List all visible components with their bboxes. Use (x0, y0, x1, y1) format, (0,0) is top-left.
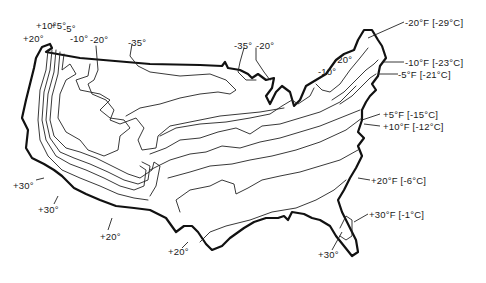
leader-ca-plus30b (54, 196, 58, 204)
isotherm-plus20-west (38, 50, 148, 200)
leader-ne-minus20 (368, 22, 404, 38)
label-east-minus10: -10° (318, 67, 336, 77)
leader-ec-plus10 (364, 124, 380, 126)
isotherm-lakes-minus35 (238, 48, 256, 80)
label-west-plus20: +20° (23, 34, 44, 44)
label-fl-plus30: +30° (318, 250, 339, 260)
label-north-minus35: -35° (128, 38, 146, 48)
label-lakes-minus20: -20° (256, 41, 274, 51)
label-ne-minus5: -5°F [-21°C] (398, 70, 451, 80)
label-ca-plus30-b: +30° (38, 205, 59, 215)
leader-se-plus30 (354, 214, 368, 222)
leader-ec-plus20 (358, 178, 370, 180)
label-ne-minus10: -10°F [-23°C] (405, 58, 463, 68)
label-east-minus20: -20° (334, 55, 352, 65)
leader-ca-plus30a (36, 178, 44, 180)
label-sw-plus20-a: +20° (100, 232, 121, 242)
leader-sw-plus20a (108, 218, 112, 230)
label-ne-minus20: -20°F [-29°C] (405, 18, 463, 28)
label-ec-plus20: +20°F [-6°C] (371, 176, 426, 186)
isotherm-plus20-central (176, 150, 358, 212)
us-border (22, 30, 386, 256)
isotherm-plus10-central (168, 118, 362, 178)
isotherm-plus30-south (200, 180, 346, 242)
label-lakes-minus35: -35° (234, 41, 252, 51)
label-ec-plus10: +10°F [-12°C] (383, 122, 444, 132)
label-west-minus20: -20° (90, 35, 108, 45)
label-ca-plus30-a: +30° (13, 181, 34, 191)
isotherm-minus5-west (50, 52, 160, 196)
leader-ec-plus5 (362, 114, 380, 120)
label-ec-plus5: +5°F [-15°C] (383, 110, 438, 120)
isotherm-minus10-west (58, 54, 130, 156)
isotherm-minus35-north (126, 44, 236, 116)
label-west-minus10: -10° (70, 34, 88, 44)
label-sw-plus20-b: +20° (168, 247, 189, 257)
label-se-plus30: +30°F [-1°C] (369, 210, 424, 220)
